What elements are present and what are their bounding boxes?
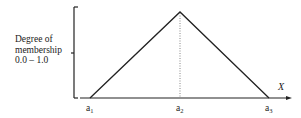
x-axis xyxy=(80,96,292,100)
x-axis-label: X xyxy=(277,81,285,92)
y-axis-label: Degree of membership 0.0 – 1.0 xyxy=(15,34,71,66)
point-label-a1: a1 xyxy=(86,103,93,114)
y-axis-label-line-1: Degree of xyxy=(15,34,71,45)
triangle-membership-curve xyxy=(90,12,269,98)
x-axis-arrow-icon xyxy=(286,96,292,100)
y-axis-label-line-2: membership xyxy=(15,45,71,56)
y-axis xyxy=(71,7,78,98)
point-label-a2: a2 xyxy=(176,103,183,114)
point-label-a3: a3 xyxy=(265,103,272,114)
y-axis-label-line-3: 0.0 – 1.0 xyxy=(15,55,71,66)
membership-function-diagram: X a1 a2 a3 Degree of membership 0.0 – 1.… xyxy=(0,0,301,118)
